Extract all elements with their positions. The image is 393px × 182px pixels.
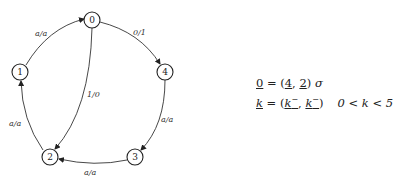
edge-0-to-4 <box>100 22 160 64</box>
formula-k-lhs: k <box>256 96 263 110</box>
edge-label-4-3: a/a <box>161 115 173 124</box>
node-4: 4 <box>157 64 173 80</box>
svg-text:1: 1 <box>17 67 23 77</box>
formula-eq: = ( <box>263 96 284 110</box>
svg-text:4: 4 <box>162 67 168 77</box>
node-1: 1 <box>12 64 28 80</box>
edge-label-3-2: a/a <box>84 168 96 177</box>
formula-close: ) <box>319 96 324 110</box>
svg-text:3: 3 <box>132 152 138 162</box>
formula-k-minus-b: k− <box>305 96 319 110</box>
formula-4: 4 <box>285 76 292 90</box>
node-3: 3 <box>127 149 143 165</box>
formula-k-minus-a: k− <box>284 96 298 110</box>
edge-2-to-1 <box>21 81 43 150</box>
edge-label-0-4: 0/1 <box>133 28 146 37</box>
edge-0-to-2 <box>55 28 92 149</box>
formula-eq: = ( <box>263 76 284 90</box>
formula-line-2: k = (k−, k−)0 < k < 5 <box>256 95 393 110</box>
formula-sigma: σ <box>311 76 323 90</box>
edge-3-to-2 <box>59 159 127 163</box>
svg-text:2: 2 <box>47 152 53 162</box>
svg-text:0: 0 <box>89 15 95 25</box>
edge-label-2-1: a/a <box>9 119 21 128</box>
formula-condition: 0 < k < 5 <box>338 96 393 110</box>
edge-label-0-2: 1/0 <box>87 90 100 99</box>
node-2: 2 <box>42 149 58 165</box>
node-0: 0 <box>84 12 100 28</box>
edge-label-1-0: a/a <box>35 29 47 38</box>
edge-1-to-0 <box>26 19 84 65</box>
formula-2: 2 <box>299 76 306 90</box>
formula-line-1: 0 = (4, 2) σ <box>256 76 323 90</box>
